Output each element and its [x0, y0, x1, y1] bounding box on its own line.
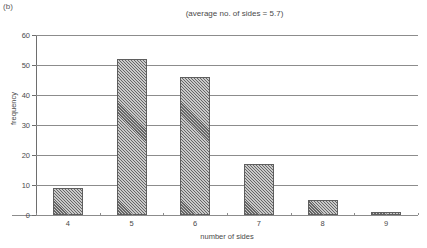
- y-tick-label-60: 60: [0, 31, 30, 40]
- x-minor-tick-6: [418, 213, 419, 215]
- x-minor-tick-3: [227, 213, 228, 215]
- y-tick-mark-20: [32, 155, 36, 156]
- y-tick-mark-60: [32, 35, 36, 36]
- y-tick-label-10: 10: [0, 181, 30, 190]
- y-tick-label-20: 20: [0, 151, 30, 160]
- y-tick-mark-0: [32, 215, 36, 216]
- x-minor-tick-0: [36, 213, 37, 215]
- x-tick-mark-9: [386, 213, 387, 216]
- y-tick-mark-40: [32, 95, 36, 96]
- x-minor-tick-2: [163, 213, 164, 215]
- x-tick-label-9: 9: [371, 219, 401, 228]
- gridline-y-0: [36, 215, 418, 216]
- bar-4: [53, 188, 83, 215]
- x-minor-tick-4: [291, 213, 292, 215]
- bar-6: [180, 77, 210, 215]
- x-axis-label: number of sides: [36, 232, 418, 241]
- x-tick-mark-5: [132, 213, 133, 216]
- x-tick-mark-4: [68, 213, 69, 216]
- x-minor-tick-5: [354, 213, 355, 215]
- x-tick-label-8: 8: [308, 219, 338, 228]
- x-tick-mark-8: [323, 213, 324, 216]
- x-tick-label-5: 5: [117, 219, 147, 228]
- figure-panel-b: (b) (average no. of sides = 5.7) 0102030…: [0, 0, 427, 248]
- x-minor-tick-1: [100, 213, 101, 215]
- y-tick-mark-50: [32, 65, 36, 66]
- chart-title: (average no. of sides = 5.7): [0, 9, 427, 18]
- y-tick-mark-30: [32, 125, 36, 126]
- bars-layer: [36, 35, 418, 215]
- y-tick-label-0: 0: [0, 211, 30, 220]
- x-tick-label-6: 6: [180, 219, 210, 228]
- x-tick-mark-6: [195, 213, 196, 216]
- x-tick-label-7: 7: [244, 219, 274, 228]
- x-tick-label-4: 4: [53, 219, 83, 228]
- bar-5: [117, 59, 147, 215]
- x-tick-mark-7: [259, 213, 260, 216]
- y-axis-label: frequency: [9, 69, 18, 149]
- y-tick-mark-10: [32, 185, 36, 186]
- bar-7: [244, 164, 274, 215]
